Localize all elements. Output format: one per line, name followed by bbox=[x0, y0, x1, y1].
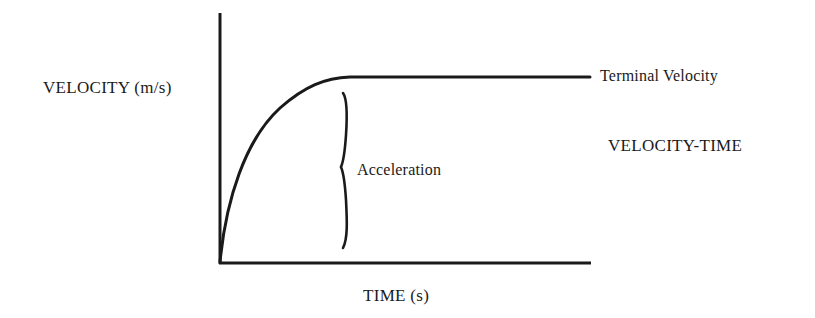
x-axis-label: TIME (s) bbox=[363, 287, 429, 304]
acceleration-brace bbox=[341, 93, 347, 248]
velocity-time-diagram bbox=[0, 0, 815, 318]
acceleration-label: Acceleration bbox=[357, 162, 441, 178]
y-axis-label: VELOCITY (m/s) bbox=[43, 79, 172, 96]
diagram-title: VELOCITY-TIME bbox=[608, 137, 742, 154]
terminal-velocity-label: Terminal Velocity bbox=[600, 68, 718, 84]
